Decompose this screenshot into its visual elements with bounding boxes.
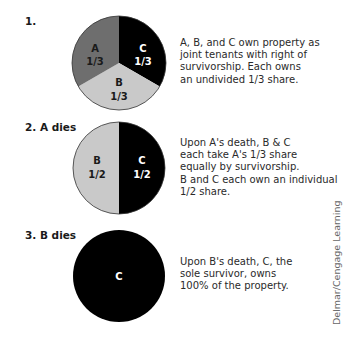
segment-b-owner: B — [93, 155, 101, 166]
image-credit: Delmar/Cengage Learning — [331, 201, 342, 325]
description-line: each take A's 1/3 share — [180, 149, 337, 161]
segment-b-owner: B — [115, 77, 123, 88]
segment-b-share: 1/3 — [110, 91, 128, 102]
description-line: A, B, and C own property as — [180, 37, 320, 49]
segment-c-share: 1/3 — [134, 56, 152, 67]
segment-b-share: 1/2 — [88, 169, 106, 180]
step-1-label: 1. — [25, 15, 36, 27]
pie-chart-step-2: B 1/2 C 1/2 — [71, 120, 167, 216]
step-3-label: 3. B dies — [25, 229, 76, 241]
description-line: survivorship. Each owns — [180, 61, 320, 73]
description-line: B and C each own an individual — [180, 174, 337, 186]
description-line: Upon B's death, C, the — [180, 256, 292, 268]
segment-a-owner: A — [91, 43, 99, 54]
segment-c-owner: C — [139, 43, 146, 54]
description-line: an undivided 1/3 share. — [180, 74, 320, 86]
description-line: equally by survivorship. — [180, 161, 337, 173]
segment-c-owner: C — [138, 155, 145, 166]
description-line: 1/2 share. — [180, 186, 337, 198]
segment-b — [73, 122, 119, 214]
description-line: Upon A's death, B & C — [180, 137, 337, 149]
segment-c-share: 1/2 — [133, 169, 151, 180]
description-line: joint tenants with right of — [180, 49, 320, 61]
segment-c — [119, 122, 165, 214]
pie-chart-step-1: A 1/3 C 1/3 B 1/3 — [70, 14, 168, 112]
segment-a-share: 1/3 — [86, 56, 104, 67]
step-3-description: Upon B's death, C, the sole survivor, ow… — [180, 256, 292, 293]
segment-c-owner: C — [115, 271, 122, 282]
description-line: sole survivor, owns — [180, 268, 292, 280]
step-2-description: Upon A's death, B & C each take A's 1/3 … — [180, 137, 337, 198]
step-2-label: 2. A dies — [25, 121, 76, 133]
step-1-description: A, B, and C own property as joint tenant… — [180, 37, 320, 86]
pie-chart-step-3: C — [72, 229, 166, 323]
description-line: 100% of the property. — [180, 280, 292, 292]
